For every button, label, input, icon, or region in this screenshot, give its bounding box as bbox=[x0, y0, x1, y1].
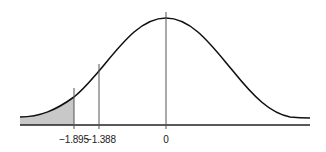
tick-label-zero: 0 bbox=[163, 134, 168, 145]
tick-label-neg-1-895: −1.895 bbox=[59, 134, 89, 145]
bell-curve bbox=[20, 18, 310, 118]
tick-label-neg-1-388: −1.388 bbox=[86, 134, 116, 145]
shaded-tail-area bbox=[20, 97, 74, 125]
distribution-chart: −1.895 −1.388 0 bbox=[0, 0, 326, 152]
chart-canvas bbox=[0, 0, 326, 152]
